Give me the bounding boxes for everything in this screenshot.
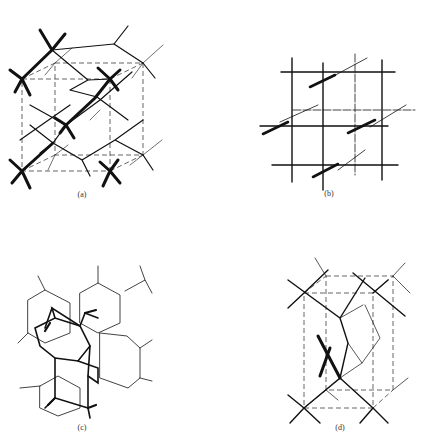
cubic-framework-diagram [210, 0, 421, 218]
panel-a-caption: (a) [62, 190, 102, 199]
panel-d: (d) [210, 218, 421, 436]
panel-a: (a) [0, 0, 210, 218]
prism-cell-diagram [210, 218, 421, 436]
panel-c: (c) [0, 218, 210, 436]
panel-c-caption: (c) [62, 423, 102, 432]
panel-b-caption: (b) [309, 189, 349, 198]
hexagonal-layer-diagram [0, 218, 210, 436]
diamond-lattice-diagram [0, 0, 210, 218]
panel-d-caption: (d) [320, 423, 360, 432]
panel-b: (b) [210, 0, 421, 218]
